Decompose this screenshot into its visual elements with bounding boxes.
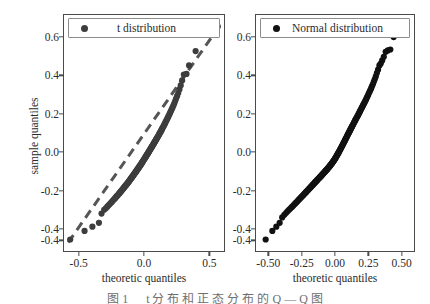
data-point [183,71,189,77]
x-tick-mark [268,252,269,256]
x-tick-mark [368,252,369,256]
x-tick-label: -0.5 [70,257,88,269]
y-tick-mark [59,240,63,241]
y-tick-label: 0.0 [237,146,251,158]
y-tick-label: -0.4 [233,234,251,246]
y-tick-mark [59,152,63,153]
y-tick-mark [59,113,63,114]
y-tick-label: 0.2 [45,108,59,120]
data-point [387,46,393,52]
x-tick-label: -0.25 [290,257,314,269]
x-tick-mark [301,252,302,256]
y-tick-label: 0.4 [237,69,251,81]
data-point [81,228,87,234]
y-tick-label: -0.2 [41,185,59,197]
y-tick-mark [251,190,255,191]
y-tick-label: -0.4 [41,234,59,246]
legend-marker-icon [81,25,88,32]
y-tick-label: 0.6 [45,31,59,43]
y-tick-mark [251,152,255,153]
y-tick-mark [251,228,255,229]
x-tick-mark [143,252,144,256]
panel-t-distribution: t distribution theoretic quantiles 0.60.… [63,14,225,252]
y-axis-title: sample quantiles [28,56,40,216]
data-point [193,48,199,54]
legend-left[interactable]: t distribution [68,18,220,38]
scatter-area-left [63,14,225,252]
x-tick-mark [209,252,210,256]
x-tick-label: 0.0 [137,257,151,269]
x-tick-label: 0.25 [358,257,378,269]
y-tick-label: 0.6 [237,31,251,43]
data-point [263,236,269,242]
legend-label-right: Normal distribution [280,22,403,34]
y-tick-label: -0.4 [41,223,59,235]
data-point [179,77,185,83]
data-point [277,220,283,226]
figure-caption: 图 1 t 分 布 和 正 态 分 布 的 Q — Q 图 [0,293,430,304]
x-tick-label: 0.00 [325,257,345,269]
y-tick-label: 0.4 [45,69,59,81]
x-axis-title-left: theoretic quantiles [102,272,187,284]
x-tick-label: 0.5 [202,257,216,269]
scatter-area-right [255,14,415,252]
y-tick-mark [251,36,255,37]
legend-right[interactable]: Normal distribution [260,18,410,38]
y-tick-label: 0.2 [237,108,251,120]
y-tick-mark [59,228,63,229]
panel-normal-distribution: Normal distribution theoretic quantiles … [255,14,415,252]
y-tick-mark [251,240,255,241]
reference-line [68,26,220,243]
y-tick-mark [251,75,255,76]
data-point [89,224,95,230]
data-point [67,236,73,242]
x-tick-mark [334,252,335,256]
x-tick-mark [78,252,79,256]
legend-label-left: t distribution [88,22,213,34]
y-tick-label: 0.0 [45,146,59,158]
x-tick-label: -0.50 [256,257,280,269]
data-point [186,62,192,68]
legend-marker-icon [273,25,280,32]
y-tick-label: -0.2 [233,185,251,197]
y-tick-mark [59,75,63,76]
y-tick-label: -0.4 [233,223,251,235]
x-axis-title-right: theoretic quantiles [293,272,378,284]
qq-plot-figure: sample quantiles t distribution theoreti… [0,0,430,304]
y-tick-mark [59,190,63,191]
x-tick-label: 0.50 [392,257,412,269]
y-tick-mark [59,36,63,37]
x-tick-mark [401,252,402,256]
y-tick-mark [251,113,255,114]
data-point [96,220,102,226]
